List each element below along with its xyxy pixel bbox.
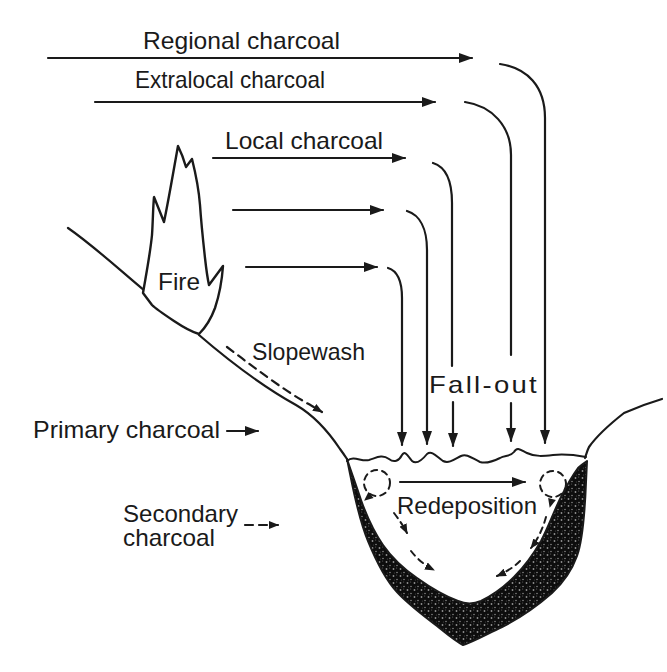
eddy-right-circle bbox=[540, 471, 566, 497]
charcoal-taphonomy-diagram: Regional charcoal Extralocal charcoal Lo… bbox=[0, 0, 667, 672]
eddy-left-circle bbox=[364, 470, 390, 496]
secondary-charcoal-label-line1: Secondary bbox=[123, 500, 238, 527]
fire-label: Fire bbox=[158, 268, 200, 295]
hillslope-upper-line bbox=[68, 228, 145, 291]
eddy-left-arrowhead bbox=[362, 492, 374, 504]
secondary-charcoal-label-line2: charcoal bbox=[123, 524, 215, 551]
fire-flame-shape bbox=[143, 146, 223, 334]
slopewash-label: Slopewash bbox=[252, 338, 365, 365]
diagram-page: Regional charcoal Extralocal charcoal Lo… bbox=[0, 0, 667, 672]
regional-charcoal-label: Regional charcoal bbox=[143, 27, 340, 54]
water-surface-line bbox=[347, 449, 586, 463]
eddy-right-arrowhead bbox=[546, 498, 556, 509]
local-charcoal-label: Local charcoal bbox=[225, 127, 383, 154]
fallout-label: Fall-out bbox=[429, 371, 539, 398]
redeposition-label: Redeposition bbox=[397, 492, 537, 519]
basin-sediment-shape bbox=[347, 459, 587, 645]
local-fallout-curve bbox=[433, 163, 452, 366]
right-ground-line bbox=[585, 399, 662, 458]
fire-emission-lower-curve bbox=[388, 268, 402, 445]
extralocal-charcoal-label: Extralocal charcoal bbox=[135, 66, 325, 93]
eddy-arrow-left-lower bbox=[411, 551, 434, 570]
extralocal-fallout-curve bbox=[465, 102, 511, 355]
fire-emission-upper-curve bbox=[407, 211, 427, 444]
primary-charcoal-label: Primary charcoal bbox=[33, 416, 220, 443]
